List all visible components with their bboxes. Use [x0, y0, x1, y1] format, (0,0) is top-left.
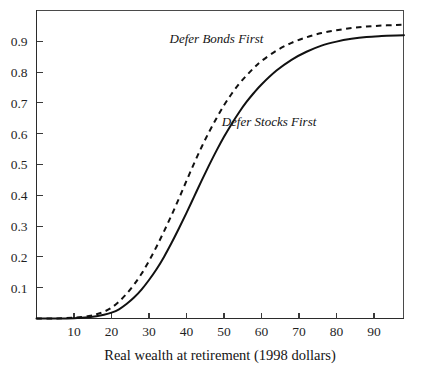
plot-axes	[36, 10, 404, 319]
x-tick-label: 90	[367, 324, 381, 339]
x-tick-label: 10	[67, 324, 81, 339]
x-tick-label: 30	[142, 324, 156, 339]
y-tick-label: 0.8	[11, 65, 28, 80]
chart-figure: 0.10.20.30.40.50.60.70.80.9 102030405060…	[0, 0, 430, 372]
x-tick-label: 60	[255, 324, 269, 339]
y-tick-label: 0.7	[11, 96, 28, 111]
y-axis-ticks: 0.10.20.30.40.50.60.70.80.9	[11, 34, 43, 295]
series-line-defer-stocks-first	[37, 35, 405, 318]
x-tick-label: 80	[330, 324, 344, 339]
y-tick-label: 0.5	[11, 157, 28, 172]
y-tick-label: 0.1	[11, 281, 28, 296]
y-tick-label: 0.9	[11, 34, 28, 49]
x-tick-label: 70	[292, 324, 306, 339]
x-tick-label: 50	[217, 324, 231, 339]
x-tick-label: 20	[105, 324, 119, 339]
x-axis-title: Real wealth at retirement (1998 dollars)	[104, 347, 336, 364]
x-tick-label: 40	[180, 324, 194, 339]
y-tick-label: 0.3	[11, 219, 28, 234]
series-line-defer-bonds-first	[37, 25, 405, 319]
data-series-group	[37, 25, 405, 319]
x-axis-ticks: 102030405060708090	[67, 313, 381, 339]
y-tick-label: 0.4	[11, 188, 28, 203]
chart-canvas: 0.10.20.30.40.50.60.70.80.9 102030405060…	[0, 0, 430, 372]
series-annotation-defer-stocks-first: Defer Stocks First	[221, 114, 317, 129]
y-tick-label: 0.2	[11, 250, 28, 265]
series-annotation-defer-bonds-first: Defer Bonds First	[169, 31, 264, 46]
plot-frame	[36, 11, 404, 319]
y-tick-label: 0.6	[11, 127, 28, 142]
